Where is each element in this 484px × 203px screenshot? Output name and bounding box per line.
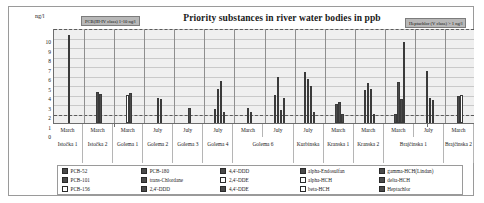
plot-canvas — [53, 29, 474, 124]
x-axis-month-cell: March — [83, 124, 113, 137]
bar — [129, 93, 131, 123]
x-axis-site-cell: Golema 3 — [173, 137, 203, 163]
y-axis-unit-label: ng/l — [35, 13, 44, 19]
y-axis-tick: 2 — [48, 116, 51, 122]
plot-area — [53, 29, 474, 124]
legend-swatch — [379, 177, 385, 183]
bar — [373, 114, 375, 124]
group-separator — [174, 29, 175, 123]
x-axis-month-cell: March — [324, 124, 354, 137]
x-axis-month-cell: March — [233, 124, 263, 137]
legend-item: gamma-HCH(Lindan) — [379, 166, 458, 175]
legend-swatch — [141, 168, 147, 174]
legend-item: Heptachlor — [379, 185, 458, 194]
legend-item: 4,4'-DDE — [220, 185, 299, 194]
legend-label: 2,4'-DDE — [229, 177, 249, 183]
legend-swatch — [220, 168, 226, 174]
bar-group — [84, 29, 114, 123]
y-axis-tick: 9 — [48, 50, 51, 56]
group-separator — [204, 29, 205, 123]
legend-item: 2,4'-DDD — [141, 185, 220, 194]
legend-swatch — [220, 177, 226, 183]
x-axis-site-cell: Kurbinska — [294, 137, 324, 163]
chart-title: Priority substances in river water bodie… — [177, 13, 387, 23]
x-axis-month-cell: March — [354, 124, 384, 137]
y-axis-tick: 10 — [46, 40, 52, 46]
legend-swatch — [300, 177, 306, 183]
legend-item: PCB-101 — [62, 175, 141, 184]
x-axis-month-cell: March — [53, 124, 83, 137]
legend-label: gamma-HCH(Lindan) — [387, 168, 433, 174]
legend-label: trans-Chlordane — [150, 177, 183, 183]
x-axis-site-cell: Brajčinska 2 — [444, 137, 474, 163]
legend-label: PCB-52 — [71, 168, 88, 174]
bar-group — [54, 29, 84, 123]
legend-label: PCB-101 — [71, 177, 90, 183]
bar-group — [355, 29, 385, 123]
legend-item: delta-HCH — [379, 175, 458, 184]
x-axis-month-cell: July — [143, 124, 173, 137]
bar-group — [445, 29, 474, 123]
legend-label: PCB-156 — [71, 186, 90, 192]
x-axis-month-cell: July — [203, 124, 233, 137]
x-axis-site-cell: Kranska 2 — [354, 137, 384, 163]
legend-swatch — [379, 168, 385, 174]
y-axis-tick-labels: 012345678910 — [35, 25, 51, 124]
bar — [403, 42, 405, 123]
bar-group — [144, 29, 174, 123]
y-axis-tick: 8 — [48, 59, 51, 65]
x-axis-site-cell: Golema 1 — [113, 137, 143, 163]
y-axis-tick: 3 — [48, 107, 51, 113]
legend-swatch — [300, 186, 306, 192]
legend-swatch — [220, 186, 226, 192]
x-axis-month-cell: July — [414, 124, 444, 137]
legend-item: alpha-HCH — [300, 175, 379, 184]
bar-group — [114, 29, 144, 123]
x-axis-month-cell: March — [444, 124, 474, 137]
x-axis-site-cell: Kranska 1 — [324, 137, 354, 163]
x-axis-month-cell: March — [113, 124, 143, 137]
legend-swatch — [141, 177, 147, 183]
group-separator — [295, 29, 296, 123]
bar — [283, 98, 285, 123]
legend-label: alpha-Endosulfan — [308, 168, 345, 174]
bar — [341, 114, 343, 124]
bar-group — [204, 29, 234, 123]
group-separator — [84, 29, 85, 123]
legend-item: PCB-52 — [62, 166, 141, 175]
legend-label: delta-HCH — [387, 177, 410, 183]
y-axis-tick: 7 — [48, 69, 51, 75]
bar — [460, 95, 462, 123]
legend-swatch — [379, 186, 385, 192]
group-separator — [445, 29, 446, 123]
group-separator — [265, 29, 266, 123]
legend-swatch — [62, 168, 68, 174]
legend-swatch — [62, 177, 68, 183]
bar-group — [174, 29, 204, 123]
bar-group — [265, 29, 295, 123]
y-axis-tick: 6 — [48, 78, 51, 84]
x-axis-month-cell: July — [264, 124, 294, 137]
bar — [99, 94, 101, 123]
bar — [432, 100, 434, 123]
legend-item: alpha-Endosulfan — [300, 166, 379, 175]
bar-group — [325, 29, 355, 123]
legend-item: PCB-180 — [141, 166, 220, 175]
chart-frame: ng/l Priority substances in river water … — [8, 6, 474, 196]
bar-group — [385, 29, 415, 123]
y-axis-tick: 5 — [48, 88, 51, 94]
legend-item: beta-HCH — [300, 185, 379, 194]
group-separator — [325, 29, 326, 123]
legend-label: PCB-180 — [150, 168, 169, 174]
group-separator — [385, 29, 386, 123]
x-axis-site-cell: Brajčinska 1 — [384, 137, 444, 163]
chart-legend: PCB-52PCB-1804,4'-DDDalpha-Endosulfangam… — [57, 165, 463, 195]
y-axis-tick: 4 — [48, 97, 51, 103]
legend-label: 4,4'-DDE — [229, 186, 249, 192]
legend-label: Heptachlor — [387, 186, 410, 192]
legend-item: trans-Chlordane — [141, 175, 220, 184]
legend-item: 4,4'-DDD — [220, 166, 299, 175]
annotation-heptachlor-class: Heptachlor (V class) > 1 ng/l — [405, 18, 466, 28]
annotation-pcb-class: PCB(III-IV class) 1-10 ng/l — [81, 16, 140, 26]
bar-group — [234, 29, 264, 123]
